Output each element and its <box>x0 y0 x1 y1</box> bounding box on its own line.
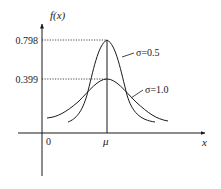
leader-sigma-1-0 <box>131 90 143 98</box>
legend-sigma-0-5: σ=0.5 <box>136 47 160 58</box>
tick-label-0399: 0.399 <box>16 74 39 85</box>
x-axis-label: x <box>201 136 207 148</box>
origin-label: 0 <box>46 136 51 147</box>
normal-distribution-chart: f(x) 0.798 0.399 0 μ x σ=0.5 σ=1.0 <box>0 0 221 189</box>
y-axis-label: f(x) <box>50 9 66 22</box>
tick-label-0798: 0.798 <box>16 35 39 46</box>
mu-label: μ <box>102 135 109 147</box>
legend-sigma-1-0: σ=1.0 <box>145 84 169 95</box>
leader-sigma-0-5 <box>122 53 134 57</box>
